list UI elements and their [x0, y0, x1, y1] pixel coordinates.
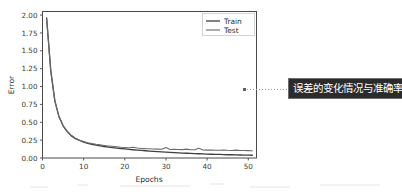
legend-label-test: Test	[223, 26, 239, 35]
x-tick-label: 30	[161, 162, 171, 171]
artifact-smudge	[120, 185, 190, 187]
y-tick-label: 2.00	[21, 11, 37, 20]
training-error-chart: 0.000.250.500.751.001.251.501.752.00 010…	[0, 0, 270, 192]
data-series-group	[47, 18, 253, 155]
page-artifact-band	[0, 180, 402, 192]
y-tick-label: 1.75	[21, 29, 37, 38]
y-tick-label: 0.50	[21, 118, 37, 127]
artifact-smudge	[210, 183, 224, 185]
y-tick-label: 0.75	[21, 100, 37, 109]
y-tick-label: 1.25	[21, 64, 37, 73]
annotation-leader-line	[243, 88, 289, 91]
x-tick-label: 0	[40, 162, 45, 171]
x-tick-label: 10	[79, 162, 89, 171]
x-tick-label: 40	[203, 162, 213, 171]
y-axis-label: Error	[7, 75, 16, 94]
annotation-callout-label: 误差的变化情况与准确率	[293, 83, 402, 94]
y-tick-label: 1.50	[21, 46, 37, 55]
artifact-smudge	[30, 186, 48, 188]
x-axis-ticks: 01020304050	[40, 158, 253, 171]
chart-canvas: 0.000.250.500.751.001.251.501.752.00 010…	[0, 0, 270, 192]
screenshot-root: 0.000.250.500.751.001.251.501.752.00 010…	[0, 0, 402, 192]
leader-dotted-line	[247, 89, 289, 90]
annotation-callout: 误差的变化情况与准确率	[288, 78, 402, 99]
y-tick-label: 0.25	[21, 136, 37, 145]
series-line-test	[47, 19, 253, 151]
y-axis-ticks: 0.000.250.500.751.001.251.501.752.00	[21, 11, 42, 163]
chart-legend: Train Test	[203, 14, 255, 36]
artifact-smudge	[78, 184, 88, 186]
x-tick-label: 20	[120, 162, 130, 171]
y-tick-label: 0.00	[21, 154, 37, 163]
x-tick-label: 50	[244, 162, 254, 171]
artifact-smudge	[320, 184, 380, 186]
series-line-train	[47, 18, 253, 155]
leader-marker-icon	[243, 88, 246, 91]
y-tick-label: 1.00	[21, 82, 37, 91]
legend-label-train: Train	[223, 17, 242, 26]
artifact-smudge	[250, 186, 290, 188]
